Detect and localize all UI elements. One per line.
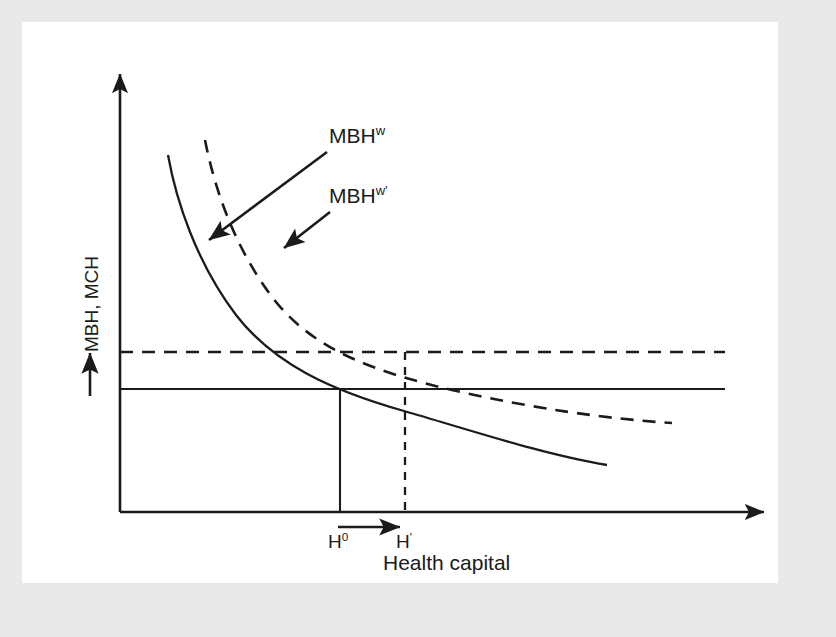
curve-label-mbh-w-prime-base: MBH xyxy=(329,184,376,207)
hprime-label-sup: ' xyxy=(410,530,412,543)
x-axis-label: Health capital xyxy=(383,551,510,575)
hprime-label: H' xyxy=(396,531,412,553)
h0-label-sup: 0 xyxy=(342,530,349,543)
curve-label-mbh-w-sup: w xyxy=(376,123,385,138)
h0-label-base: H xyxy=(328,531,342,552)
curve-label-mbh-w-prime: MBHw' xyxy=(329,184,388,208)
curve-label-mbh-w: MBHw xyxy=(329,124,385,148)
curve-label-mbh-w-base: MBH xyxy=(329,124,376,147)
figure-root: MBHw MBHw' MBH, MCH Health capital H0 H' xyxy=(0,0,836,637)
y-axis-label: MBH, MCH xyxy=(81,250,103,358)
h0-label: H0 xyxy=(328,531,348,553)
hprime-label-base: H xyxy=(396,531,410,552)
curve-label-mbh-w-prime-sup: w' xyxy=(376,183,388,198)
diagram-canvas xyxy=(0,0,836,637)
mbh-w-prime-curve xyxy=(205,140,672,423)
annotation-arrow-to-mbh-w-prime xyxy=(284,212,330,248)
